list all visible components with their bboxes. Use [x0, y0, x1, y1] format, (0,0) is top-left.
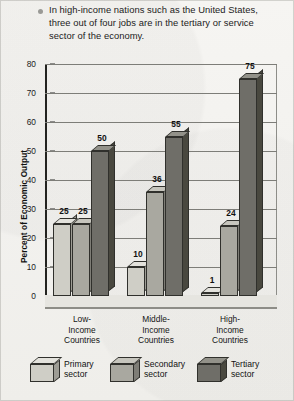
- bar: 25: [72, 224, 90, 297]
- y-axis-tick-label: 50: [10, 146, 36, 156]
- bar-face: [220, 226, 238, 296]
- bar-side: [257, 69, 263, 291]
- y-axis-tick-label: 40: [10, 175, 36, 185]
- y-axis-tick-label: 70: [10, 88, 36, 98]
- bar-value-label: 75: [238, 61, 262, 71]
- bar-group: 103655: [127, 64, 193, 296]
- legend-label: Primarysector: [64, 359, 94, 380]
- cube-dark-icon: [197, 356, 227, 382]
- legend-item: Tertiarysector: [197, 356, 259, 382]
- y-axis-tick-label: 0: [10, 291, 36, 301]
- legend-label-line2: sector: [231, 369, 259, 379]
- legend-item: Primarysector: [30, 356, 94, 382]
- bar: 1: [201, 293, 219, 296]
- legend-cube-face: [110, 364, 134, 382]
- bar-chart: Percent of Economic Output 8070605040302…: [0, 52, 294, 352]
- legend-cube-face: [30, 364, 54, 382]
- legend-label-line1: Primary: [64, 359, 94, 369]
- bar: 24: [220, 226, 238, 296]
- bar-face: [72, 224, 90, 297]
- bar-face: [146, 192, 164, 296]
- bar: 55: [165, 137, 183, 297]
- bar: 75: [239, 79, 257, 297]
- bar-face: [201, 293, 219, 296]
- legend-label-line2: sector: [144, 369, 185, 379]
- figure-page: In high-income nations such as the Unite…: [0, 0, 294, 401]
- bar-value-label: 50: [90, 133, 114, 143]
- legend-label-line1: Tertiary: [231, 359, 259, 369]
- bar-group: 252550: [53, 64, 119, 296]
- legend-label: Secondarysector: [144, 359, 185, 380]
- category-label-line: Income: [187, 325, 273, 336]
- category-label-line: Countries: [187, 335, 273, 346]
- bar-face: [53, 224, 71, 297]
- bar-face: [127, 267, 145, 296]
- bullet-dot-icon: [38, 9, 43, 14]
- y-axis-tick-label: 20: [10, 233, 36, 243]
- legend-label-line1: Secondary: [144, 359, 185, 369]
- bar-side: [109, 141, 115, 291]
- chart-legend: PrimarysectorSecondarysectorTertiarysect…: [0, 356, 294, 396]
- legend-label-line2: sector: [64, 369, 94, 379]
- figure-caption: In high-income nations such as the Unite…: [38, 3, 274, 43]
- x-axis-category-label: High-IncomeCountries: [187, 314, 273, 346]
- cube-light-icon: [30, 356, 60, 382]
- bar-face: [91, 151, 109, 296]
- y-axis-tick-label: 60: [10, 117, 36, 127]
- legend-label: Tertiarysector: [231, 359, 259, 380]
- bar: 10: [127, 267, 145, 296]
- caption-text: In high-income nations such as the Unite…: [49, 3, 274, 43]
- bar-face: [239, 79, 257, 297]
- legend-item: Secondarysector: [110, 356, 185, 382]
- chart-floor: [45, 295, 277, 309]
- plot-area: 25255010365512475: [45, 64, 277, 296]
- bar-value-label: 55: [164, 119, 188, 129]
- y-axis-tick-label: 30: [10, 204, 36, 214]
- bar-side: [183, 127, 189, 291]
- y-axis-tick-label: 10: [10, 262, 36, 272]
- legend-cube-face: [197, 364, 221, 382]
- bar: 25: [53, 224, 71, 297]
- bar: 50: [91, 151, 109, 296]
- cube-medium-icon: [110, 356, 140, 382]
- category-label-line: High-: [187, 314, 273, 325]
- y-axis-tick-label: 80: [10, 59, 36, 69]
- y-axis-ticks: 80706050403020100: [10, 52, 36, 352]
- bar-group: 12475: [201, 64, 267, 296]
- bar: 36: [146, 192, 164, 296]
- bar-face: [165, 137, 183, 297]
